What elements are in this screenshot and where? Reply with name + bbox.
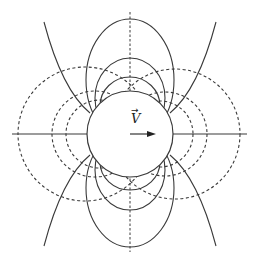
flow-diagram: V → xyxy=(0,0,259,266)
vector-arrow-icon: → xyxy=(131,105,139,115)
